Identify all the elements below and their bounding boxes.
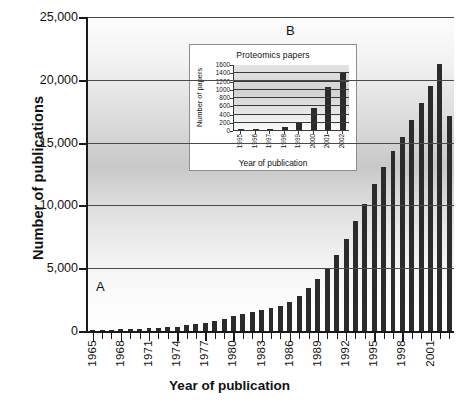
x-axis-tick [140,333,141,339]
inset-plot-area [233,65,349,131]
x-axis-tick [393,333,394,339]
inset-x-tick-label: 1995 [237,134,243,148]
bar [231,316,236,332]
x-axis-tick [280,333,281,339]
x-axis-line [86,331,454,333]
x-axis-tick-label: 1995 [368,340,380,367]
inset-bar [296,122,302,130]
y-axis-tick-label: 25,000 [4,11,78,24]
x-axis-tick-label: 1971 [143,340,155,367]
inset-x-tick-label: 1997 [266,134,272,148]
inset-x-tick-label: 2000 [310,134,316,148]
bar [419,103,424,332]
bar [381,167,386,332]
gridline [88,268,454,269]
x-axis-tick-label: 1983 [256,340,268,367]
bar [391,151,396,332]
x-axis-tick [215,333,216,339]
x-axis-tick-label: 2001 [425,340,437,367]
x-axis-tick-label: 1980 [227,340,239,367]
x-axis-tick [421,333,422,339]
inset-y-tick [230,131,233,132]
bar [297,296,302,332]
bar [353,221,358,332]
inset-y-tick [230,73,233,74]
inset-bar [325,87,331,130]
x-axis-tick-label: 1977 [199,340,211,367]
x-axis-tick-label: 1998 [396,340,408,367]
x-axis-tick-label: 1986 [284,340,296,367]
bar [325,269,330,332]
inset-gridline [234,72,349,73]
y-axis-tick-label: 0 [4,325,78,338]
y-axis-tick [79,268,87,270]
inset-y-tick-label: 400 [194,112,230,118]
inset-bar [311,108,317,130]
x-axis-tick [158,333,159,339]
inset-gridline [234,105,349,106]
x-axis-tick [299,333,300,339]
inset-x-tick-label: 1999 [295,134,301,148]
inset-y-tick-label: 600 [194,103,230,109]
gridline [88,143,454,144]
inset-y-tick-labels: 02004006008001000120014001600 [190,45,230,140]
x-axis-tick [355,333,356,339]
x-axis-tick [252,333,253,339]
inset-x-axis-title: Year of publication [190,158,356,168]
x-axis-tick-label: 1965 [87,340,99,367]
figure-root: Number of publications Year of publicati… [0,0,459,407]
bar [240,314,245,332]
bar [428,86,433,332]
inset-x-tick-label: 2002 [339,134,345,148]
inset-gridline [234,97,349,98]
x-axis-tick [365,333,366,339]
x-axis-tick [337,333,338,339]
inset-y-tick-label: 1000 [194,87,230,93]
y-axis-tick-label: 15,000 [4,137,78,150]
inset-x-tick-label: 1998 [281,134,287,148]
bar [409,120,414,332]
x-axis-tick-label: 1974 [171,340,183,367]
inset-y-tick-label: 200 [194,120,230,126]
x-axis-tick [327,333,328,339]
x-axis-title: Year of publication [0,378,459,393]
inset-y-tick [230,123,233,124]
gridline [88,17,454,18]
bar [447,116,452,332]
x-axis-tick-label: 1968 [115,340,127,367]
y-axis-tick [79,205,87,207]
y-axis-tick-label: 10,000 [4,199,78,212]
bar [400,137,405,332]
bar [287,302,292,332]
y-axis-line [86,17,88,333]
x-axis-tick [168,333,169,339]
x-axis-tick [130,333,131,339]
inset-bar [267,129,273,130]
inset-x-tick-label: 2001 [324,134,330,148]
x-axis-tick [102,333,103,339]
inset-chart: Proteomics papers Number of papers Year … [189,44,357,171]
bar [315,279,320,332]
x-axis-tick [187,333,188,339]
y-axis-tick-label: 5,000 [4,262,78,275]
bar [269,308,274,332]
gridline [88,80,454,81]
y-axis-tick-label: 20,000 [4,74,78,87]
bar [306,288,311,332]
inset-y-tick [230,106,233,107]
x-axis-tick-label: 1992 [340,340,352,367]
gridline [88,205,454,206]
x-axis-tick [224,333,225,339]
x-axis-tick [449,333,450,339]
inset-y-tick [230,82,233,83]
x-axis-tick-label: 1989 [312,340,324,367]
inset-gridline [234,114,349,115]
annotation-b: B [286,23,295,38]
x-axis-tick [271,333,272,339]
inset-gridline [234,122,349,123]
x-axis-tick [412,333,413,339]
bar [278,306,283,332]
bar [334,255,339,332]
x-axis-tick [384,333,385,339]
y-axis-tick [79,17,87,19]
